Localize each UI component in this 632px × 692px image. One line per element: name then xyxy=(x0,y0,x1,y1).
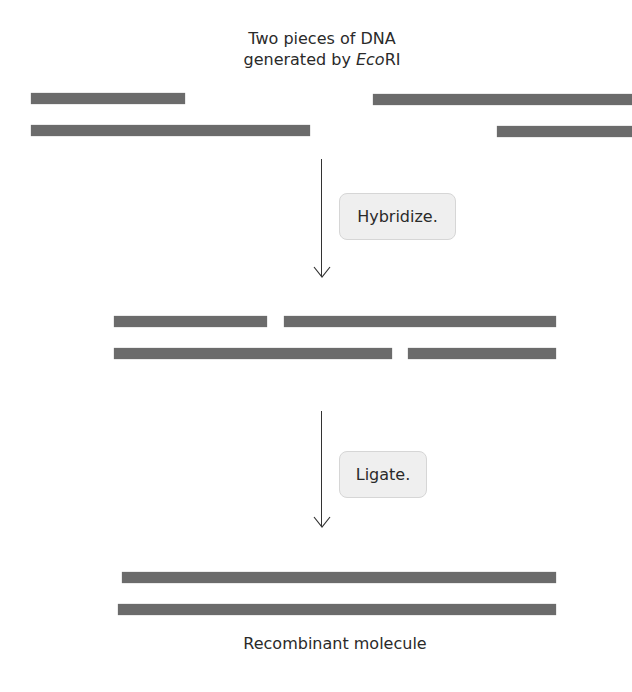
dna-strand-fragment2-top xyxy=(373,94,632,105)
step-box-hybridize: Hybridize. xyxy=(339,193,456,240)
diagram-title: Two pieces of DNA generated by EcoRI xyxy=(0,28,632,70)
down-arrow-2 xyxy=(321,411,322,526)
arrow-head-2-icon xyxy=(313,516,331,528)
dna-strand-hybrid-top-left xyxy=(114,316,267,327)
dna-strand-hybrid-top-right xyxy=(284,316,556,327)
recombinant-caption: Recombinant molecule xyxy=(0,634,632,653)
enzyme-name-italic: Eco xyxy=(356,50,385,69)
dna-strand-recombinant-bottom xyxy=(118,604,556,615)
step-box-ligate: Ligate. xyxy=(339,451,427,498)
arrow-head-1-icon xyxy=(313,266,331,278)
dna-strand-recombinant-top xyxy=(122,572,556,583)
dna-strand-fragment2-bottom xyxy=(497,126,632,137)
dna-strand-hybrid-bottom-right xyxy=(408,348,556,359)
down-arrow-1 xyxy=(321,159,322,276)
title-line-1: Two pieces of DNA xyxy=(12,28,632,49)
step-label-hybridize: Hybridize. xyxy=(357,207,438,226)
title-line-2: generated by EcoRI xyxy=(12,49,632,70)
step-label-ligate: Ligate. xyxy=(356,465,411,484)
dna-strand-fragment1-bottom xyxy=(31,125,310,136)
dna-strand-hybrid-bottom-left xyxy=(114,348,392,359)
dna-strand-fragment1-top xyxy=(31,93,185,104)
